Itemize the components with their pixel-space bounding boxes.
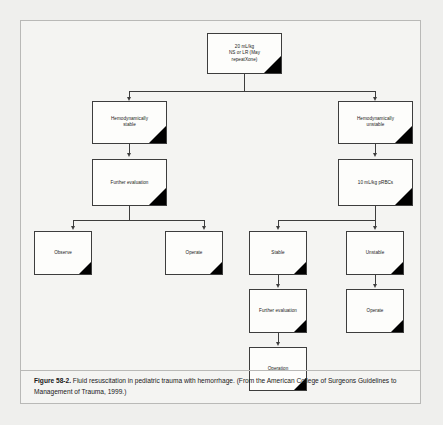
arrow-to-n12 xyxy=(276,342,280,346)
node-label: 10 mL/kg pRBCs xyxy=(341,179,410,186)
connector-n4-stem xyxy=(129,206,130,220)
node-operate-left[interactable]: Operate xyxy=(165,231,223,275)
node-initial-bolus[interactable]: 20 mL/kg NS or LR (May repeatXone) xyxy=(207,33,282,74)
node-hemodynamically-stable[interactable]: Hemodynamically stable xyxy=(92,101,167,144)
arrow-to-n4 xyxy=(127,153,131,157)
arrow-to-n5 xyxy=(373,153,377,157)
node-observe[interactable]: Observe xyxy=(34,231,92,275)
node-prbcs[interactable]: 10 mL/kg pRBCs xyxy=(338,159,413,206)
folded-corner-icon xyxy=(264,56,281,73)
node-further-evaluation-left[interactable]: Further evaluation xyxy=(92,159,167,206)
node-stable[interactable]: Stable xyxy=(249,231,307,275)
folded-corner-icon xyxy=(79,262,91,274)
caption-divider xyxy=(21,370,420,371)
figure-caption-text: Fluid resuscitation in pediatric trauma … xyxy=(34,377,396,395)
folded-corner-icon xyxy=(395,188,412,205)
arrow-to-n10 xyxy=(276,284,280,288)
folded-corner-icon xyxy=(395,126,412,143)
arrow-to-n11 xyxy=(373,284,377,288)
folded-corner-icon xyxy=(149,188,166,205)
node-label: Stable xyxy=(252,250,304,257)
arrow-to-n8 xyxy=(276,226,280,230)
folded-corner-icon xyxy=(294,320,306,332)
folded-corner-icon xyxy=(210,262,222,274)
node-unstable[interactable]: Unstable xyxy=(346,231,404,275)
connector-n1-stem xyxy=(244,74,245,91)
folded-corner-icon xyxy=(149,126,166,143)
figure-caption: Figure 58-2. Fluid resuscitation in pedi… xyxy=(34,376,408,397)
arrow-to-n7 xyxy=(202,226,206,230)
node-label: Operate xyxy=(349,308,401,315)
node-label: Operation xyxy=(252,366,304,373)
node-label: Observe xyxy=(37,250,89,257)
node-label: Further evaluation xyxy=(252,308,304,315)
arrow-to-n6 xyxy=(71,226,75,230)
node-label: Further evaluation xyxy=(95,179,164,186)
connector-n5-stem xyxy=(375,206,376,220)
node-label: Unstable xyxy=(349,250,401,257)
node-hemodynamically-unstable[interactable]: Hemodynamically unstable xyxy=(338,101,413,144)
connector-level1-bus xyxy=(129,91,375,92)
node-further-evaluation-right[interactable]: Further evaluation xyxy=(249,289,307,333)
arrow-to-n9 xyxy=(373,226,377,230)
node-operate-right[interactable]: Operate xyxy=(346,289,404,333)
figure-frame: 20 mL/kg NS or LR (May repeatXone) Hemod… xyxy=(20,20,421,404)
connector-level3-left-bus xyxy=(73,220,204,221)
node-label: Operate xyxy=(168,250,220,257)
flowchart-canvas: 20 mL/kg NS or LR (May repeatXone) Hemod… xyxy=(21,21,420,370)
folded-corner-icon xyxy=(294,262,306,274)
connector-level3-right-bus xyxy=(278,220,376,221)
figure-number: Figure 58-2. xyxy=(34,377,71,384)
folded-corner-icon xyxy=(391,320,403,332)
folded-corner-icon xyxy=(391,262,403,274)
